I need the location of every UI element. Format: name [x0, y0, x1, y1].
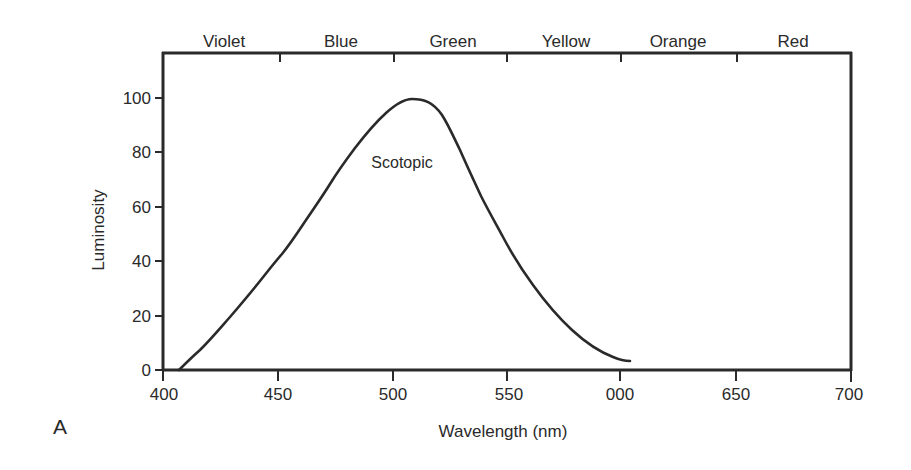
- band-label-blue: Blue: [324, 32, 358, 51]
- x-axis-ticks: [163, 370, 851, 382]
- x-tick-label: 550: [495, 385, 523, 404]
- y-axis-title: Luminosity: [89, 189, 108, 271]
- y-tick-label: 0: [142, 361, 151, 380]
- x-axis-tick-labels: 400 450 500 550 000 650 700: [150, 385, 863, 404]
- y-tick-label: 100: [123, 89, 151, 108]
- y-tick-label: 40: [132, 252, 151, 271]
- y-tick-label: 20: [132, 307, 151, 326]
- plot-frame: [162, 52, 852, 371]
- x-axis-title: Wavelength (nm): [439, 422, 568, 441]
- x-tick-label: 400: [150, 385, 178, 404]
- band-label-orange: Orange: [650, 32, 707, 51]
- band-label-yellow: Yellow: [542, 32, 591, 51]
- x-tick-label: 500: [379, 385, 407, 404]
- scotopic-curve-label: Scotopic: [371, 154, 432, 171]
- x-tick-label: 700: [835, 385, 863, 404]
- y-tick-label: 60: [132, 198, 151, 217]
- band-label-violet: Violet: [203, 32, 245, 51]
- x-tick-label: 650: [722, 385, 750, 404]
- panel-label: A: [53, 415, 67, 438]
- y-axis-tick-labels: 0 20 40 60 80 100: [123, 89, 151, 380]
- color-band-labels: Violet Blue Green Yellow Orange Red: [203, 32, 809, 51]
- band-label-red: Red: [777, 32, 808, 51]
- x-tick-label: 450: [264, 385, 292, 404]
- scotopic-curve: [179, 99, 630, 370]
- x-tick-label: 000: [606, 385, 634, 404]
- scotopic-luminosity-chart: Violet Blue Green Yellow Orange Red 0 20…: [0, 0, 911, 470]
- band-label-green: Green: [429, 32, 476, 51]
- y-tick-label: 80: [132, 143, 151, 162]
